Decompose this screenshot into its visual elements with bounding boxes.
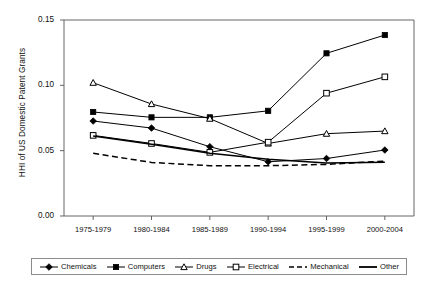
legend-label: Drugs [196,262,216,271]
series-other [93,136,385,163]
data-point-marker [324,51,329,56]
x-tick-label: 1980-1984 [122,225,182,234]
axis-frame [64,20,414,216]
series-line [93,153,385,165]
data-point-marker [113,264,118,269]
y-tick-label: 0.00 [20,211,54,220]
legend-label: Other [380,262,399,271]
legend-swatch-chemicals-icon [39,262,59,272]
legend-item-chemicals[interactable]: Chemicals [39,262,96,272]
data-point-marker [91,109,96,114]
x-tick-label: 2000-2004 [355,225,415,234]
legend-item-other[interactable]: Other [358,262,399,272]
data-point-marker [90,80,96,86]
data-point-marker [265,139,271,145]
series-line [93,35,385,117]
data-point-marker [382,147,389,154]
data-point-marker [149,115,154,120]
data-point-marker [323,155,330,162]
data-point-marker [207,143,214,150]
chart-legend: ChemicalsComputersDrugsElectricalMechani… [31,258,407,275]
data-point-marker [382,32,387,37]
legend-item-drugs[interactable]: Drugs [174,262,216,272]
legend-swatch-electrical-icon [226,262,246,272]
data-point-marker [90,133,96,139]
legend-item-electrical[interactable]: Electrical [226,262,279,272]
series-line [93,83,385,144]
line-chart: HHI of US Domestic Patent Grants Chemica… [0,0,436,281]
series-line [93,77,385,153]
x-tick-label: 1990-1994 [238,225,298,234]
x-tick-label: 1975-1979 [63,225,123,234]
series-electrical [90,74,387,155]
data-point-marker [324,90,330,96]
legend-swatch-drugs-icon [174,262,194,272]
data-point-marker [148,125,155,132]
series-line [93,136,385,163]
legend-swatch-other-icon [358,262,378,272]
series-drugs [90,80,388,147]
series-computers [91,32,388,120]
plot-area [0,0,436,281]
y-tick-label: 0.05 [20,146,54,155]
legend-label: Mechanical [310,262,348,271]
data-point-marker [382,74,388,80]
legend-label: Computers [128,262,165,271]
legend-item-computers[interactable]: Computers [106,262,165,272]
legend-label: Electrical [248,262,279,271]
series-mechanical [93,153,385,165]
data-point-marker [233,264,239,270]
legend-swatch-computers-icon [106,262,126,272]
x-tick-label: 1985-1989 [180,225,240,234]
x-tick-label: 1995-1999 [297,225,357,234]
legend-label: Chemicals [61,262,96,271]
data-point-marker [46,263,53,270]
data-point-marker [90,118,97,125]
y-tick-label: 0.10 [20,80,54,89]
legend-swatch-mechanical-icon [288,262,308,272]
legend-item-mechanical[interactable]: Mechanical [288,262,348,272]
y-tick-label: 0.15 [20,15,54,24]
data-point-marker [266,108,271,113]
